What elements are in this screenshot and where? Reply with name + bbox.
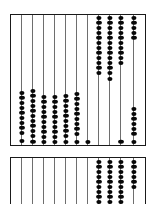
abacus-bead bbox=[96, 195, 102, 199]
abacus-bead bbox=[52, 115, 58, 119]
abacus-bead bbox=[63, 119, 68, 123]
abacus-bead bbox=[63, 129, 69, 133]
abacus-bead bbox=[131, 26, 136, 30]
abacus-bead bbox=[107, 16, 112, 20]
abacus-bead bbox=[41, 120, 46, 124]
abacus-bead bbox=[30, 140, 36, 144]
abacus-bead bbox=[52, 105, 57, 109]
abacus-bead bbox=[107, 71, 112, 75]
abacus-bead bbox=[118, 160, 123, 164]
abacus-bead bbox=[107, 165, 113, 169]
abacus-bead bbox=[131, 31, 136, 35]
abacus-bead bbox=[96, 51, 102, 55]
abacus-rod-2 bbox=[32, 158, 33, 204]
abacus-bead bbox=[131, 160, 136, 164]
abacus-bead bbox=[107, 175, 112, 179]
abacus-bead bbox=[52, 140, 57, 144]
abacus-bead bbox=[131, 21, 137, 25]
abacus-bead bbox=[118, 165, 124, 169]
abacus-bead bbox=[41, 110, 46, 114]
abacus-bead bbox=[74, 122, 79, 126]
abacus-bead bbox=[30, 104, 35, 108]
abacus-bead bbox=[19, 111, 25, 115]
panel-clip bbox=[11, 158, 145, 204]
abacus-bead bbox=[118, 21, 124, 25]
abacus-bead bbox=[107, 180, 113, 184]
abacus-bead bbox=[19, 101, 24, 105]
abacus-bead bbox=[74, 107, 79, 111]
abacus-bead bbox=[118, 26, 123, 30]
abacus-bead bbox=[118, 41, 123, 45]
abacus-bead bbox=[118, 185, 123, 189]
abacus-bead bbox=[96, 170, 101, 174]
abacus-bead bbox=[118, 51, 124, 55]
abacus-bead bbox=[19, 116, 24, 120]
abacus-bead bbox=[19, 139, 24, 143]
abacus-bead bbox=[41, 105, 46, 109]
abacus-bead bbox=[96, 180, 102, 184]
abacus-bead bbox=[107, 190, 112, 194]
abacus-bead bbox=[30, 129, 35, 133]
abacus-bead bbox=[63, 94, 68, 98]
upper-abacus-frame bbox=[10, 14, 146, 146]
abacus-bead bbox=[30, 119, 35, 123]
abacus-rod-6 bbox=[76, 158, 77, 204]
abacus-bead bbox=[41, 135, 46, 139]
abacus-bead bbox=[74, 140, 79, 144]
abacus-bead bbox=[107, 61, 112, 65]
abacus-bead bbox=[19, 106, 24, 110]
abacus-bead bbox=[41, 95, 46, 99]
abacus-bead bbox=[107, 77, 112, 81]
abacus-bead bbox=[30, 109, 36, 113]
abacus-bead bbox=[63, 134, 68, 138]
abacus-bead bbox=[131, 36, 137, 40]
abacus-bead bbox=[96, 175, 101, 179]
abacus-bead bbox=[118, 195, 124, 199]
abacus-bead bbox=[96, 31, 101, 35]
abacus-bead bbox=[41, 115, 47, 119]
abacus-bead bbox=[118, 175, 123, 179]
abacus-bead bbox=[30, 124, 36, 128]
abacus-bead bbox=[96, 165, 102, 169]
abacus-bead bbox=[107, 51, 113, 55]
abacus-bead bbox=[118, 170, 123, 174]
abacus-bead bbox=[131, 180, 137, 184]
abacus-bead bbox=[96, 36, 102, 40]
abacus-rod-3 bbox=[43, 158, 44, 204]
abacus-rod-1 bbox=[21, 158, 22, 204]
abacus-bead bbox=[131, 117, 137, 121]
abacus-diagram bbox=[0, 0, 152, 204]
abacus-rod-5 bbox=[65, 158, 66, 204]
abacus-bead bbox=[85, 140, 90, 144]
abacus-bead bbox=[52, 130, 58, 134]
abacus-rod-7 bbox=[87, 15, 88, 145]
abacus-bead bbox=[52, 95, 57, 99]
abacus-bead bbox=[96, 46, 101, 50]
abacus-bead bbox=[41, 100, 47, 104]
abacus-bead bbox=[19, 121, 24, 125]
abacus-bead bbox=[63, 114, 69, 118]
abacus-bead bbox=[52, 100, 58, 104]
abacus-bead bbox=[30, 114, 35, 118]
abacus-bead bbox=[131, 107, 136, 111]
abacus-bead bbox=[131, 112, 136, 116]
abacus-bead bbox=[107, 26, 112, 30]
abacus-bead bbox=[30, 134, 35, 138]
abacus-bead bbox=[131, 127, 136, 131]
abacus-bead bbox=[96, 26, 101, 30]
abacus-bead bbox=[74, 132, 79, 136]
abacus-bead bbox=[131, 170, 136, 174]
abacus-bead bbox=[30, 94, 36, 98]
abacus-bead bbox=[131, 140, 136, 144]
abacus-bead bbox=[30, 99, 35, 103]
abacus-bead bbox=[131, 132, 137, 136]
abacus-bead bbox=[52, 125, 57, 129]
abacus-bead bbox=[131, 122, 136, 126]
abacus-bead bbox=[96, 160, 101, 164]
abacus-bead bbox=[96, 41, 101, 45]
abacus-bead bbox=[19, 96, 25, 100]
abacus-bead bbox=[107, 200, 112, 204]
abacus-bead bbox=[118, 180, 124, 184]
panel-clip bbox=[11, 15, 145, 145]
abacus-bead bbox=[107, 160, 112, 164]
